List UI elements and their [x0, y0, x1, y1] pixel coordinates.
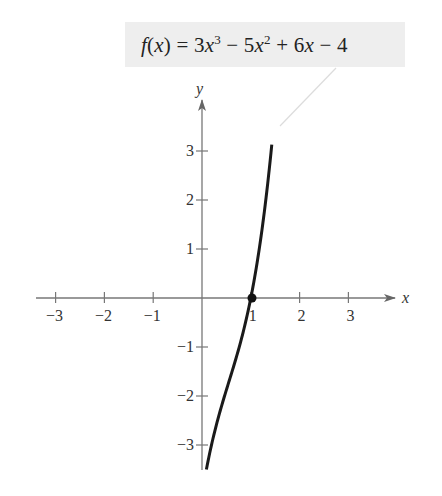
x-tick-label: 1: [249, 307, 257, 324]
y-tick-label: 2: [186, 191, 194, 208]
x-tick-label: 2: [298, 307, 306, 324]
x-axis-label: x: [401, 289, 409, 306]
callout-leader-line: [280, 68, 336, 126]
function-plot: −3−2−1123 −3−2−1123 x y: [0, 0, 442, 496]
zero-point-marker: [248, 294, 257, 303]
y-tick-label: −1: [177, 338, 194, 355]
y-tick-label: −2: [177, 387, 194, 404]
x-tick-label: −1: [144, 307, 161, 324]
y-tick-label: −3: [177, 436, 194, 453]
x-tick-label: −3: [46, 307, 63, 324]
x-ticks: −3−2−1123: [46, 292, 354, 324]
x-tick-label: −2: [95, 307, 112, 324]
y-axis-label: y: [194, 80, 204, 98]
y-tick-label: 1: [186, 240, 194, 257]
function-curve: [206, 145, 271, 470]
x-tick-label: 3: [346, 307, 354, 324]
y-tick-label: 3: [186, 142, 194, 159]
